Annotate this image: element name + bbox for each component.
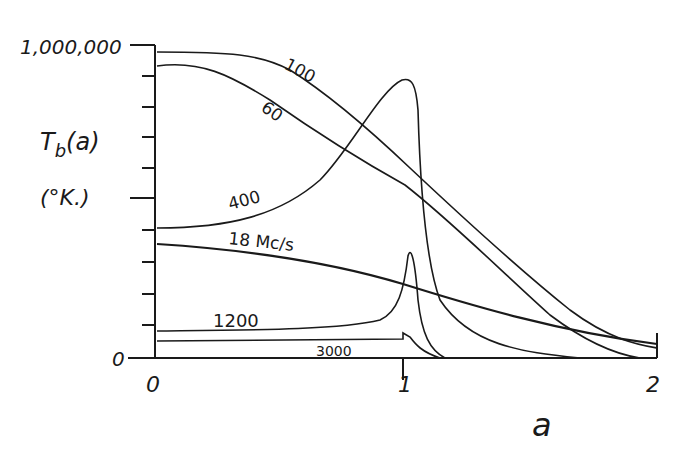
label-400: 400 xyxy=(226,186,263,214)
curve-3000 xyxy=(157,333,440,358)
label-1200: 1200 xyxy=(213,310,259,331)
x-tick-1: 1 xyxy=(398,372,412,397)
y-axis-unit: (°K.) xyxy=(40,185,90,210)
label-100: 100 xyxy=(281,54,319,87)
y-axis-title: Tb(a) xyxy=(40,128,100,161)
y-tick-1000000: 1,000,000 xyxy=(20,35,122,59)
label-3000: 3000 xyxy=(316,343,352,359)
x-tick-2: 2 xyxy=(646,372,660,397)
x-axis-title: a xyxy=(532,406,552,444)
label-60: 60 xyxy=(258,97,287,126)
y-tick-0: 0 xyxy=(112,347,125,371)
y-axis xyxy=(130,45,155,358)
chart-canvas: 1,000,000 0 0 1 2 a Tb(a) (°K.) 100 60 4… xyxy=(0,0,694,450)
x-tick-0: 0 xyxy=(146,372,160,397)
curve-1200 xyxy=(157,253,445,358)
